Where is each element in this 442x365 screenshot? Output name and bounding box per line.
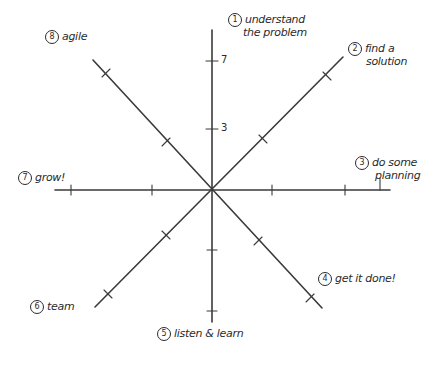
label-line-2: planning (375, 169, 420, 182)
tick-label-7: 7 (221, 54, 227, 65)
label-line-1: understand (245, 13, 305, 26)
spoke-label-find-a-solution: 2find a solution (348, 42, 407, 68)
axis-nw (93, 60, 212, 189)
axis-se (212, 189, 322, 308)
spoke-label-agile: 8agile (45, 30, 87, 44)
spoke-label-grow: 7grow! (18, 171, 65, 185)
label-line-1: agile (62, 30, 87, 43)
tick-label-3: 3 (221, 122, 227, 133)
label-line-1: team (47, 300, 74, 313)
step-number-8: 8 (45, 30, 59, 44)
spoke-label-understand-the-problem: 1understand the problem (228, 13, 307, 39)
spoke-label-get-it-done: 4get it done! (318, 272, 396, 286)
step-number-3: 3 (355, 156, 369, 170)
label-line-1: get it done! (335, 272, 396, 285)
step-number-1: 1 (228, 13, 242, 27)
label-line-1: grow! (35, 171, 65, 184)
label-line-2: solution (366, 55, 407, 68)
step-number-6: 6 (30, 300, 44, 314)
step-number-2: 2 (348, 42, 362, 56)
label-line-1: find a (365, 42, 394, 55)
label-line-1: do some (372, 156, 417, 169)
axis-sw (95, 189, 212, 307)
label-line-2: the problem (243, 26, 307, 39)
axis-ne (212, 57, 343, 189)
step-number-5: 5 (157, 327, 171, 341)
spoke-label-listen-and-learn: 5listen & learn (157, 327, 243, 341)
label-line-1: listen & learn (174, 327, 243, 340)
spoke-label-team: 6team (30, 300, 74, 314)
step-number-4: 4 (318, 272, 332, 286)
step-number-7: 7 (18, 171, 32, 185)
spoke-label-do-some-planning: 3do some planning (355, 156, 420, 182)
